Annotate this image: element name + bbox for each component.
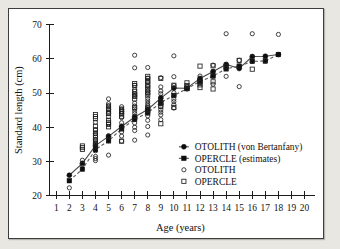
data-point: [250, 32, 254, 36]
data-point: [120, 139, 124, 143]
y-tick-label: 50: [32, 88, 42, 98]
data-point: [106, 153, 110, 157]
x-tick-label: 4: [93, 203, 98, 213]
legend-label: OPERCLE: [195, 177, 237, 187]
x-tick-label: 3: [80, 203, 85, 213]
data-point: [146, 124, 150, 128]
x-tick-label: 17: [261, 203, 271, 213]
x-tick-label: 6: [119, 203, 124, 213]
data-point: [67, 186, 71, 190]
x-tick-label: 9: [158, 203, 163, 213]
legend-entry: OPERCLE: [182, 177, 237, 187]
data-point: [224, 74, 228, 78]
scatter-chart: 2030405060701234567891011121314151617181…: [9, 9, 323, 238]
x-tick-label: 18: [274, 203, 284, 213]
chart-legend: OTOLITH (von Bertanfany)OPERCLE (estimat…: [179, 142, 302, 186]
x-tick-label: 16: [248, 203, 258, 213]
x-tick-label: 11: [182, 203, 191, 213]
data-point: [133, 53, 137, 57]
data-point: [133, 101, 137, 105]
legend-marker: [182, 156, 187, 161]
y-tick-label: 30: [32, 157, 42, 167]
legend-label: OTOLITH: [195, 165, 236, 175]
data-point: [146, 89, 150, 93]
data-point: [172, 75, 176, 79]
x-tick-label: 1: [54, 203, 59, 213]
fit-point: [67, 173, 72, 178]
y-tick-label: 20: [32, 191, 42, 201]
legend-marker: [182, 168, 186, 172]
data-point: [120, 134, 124, 138]
data-point: [159, 89, 163, 93]
data-point: [159, 118, 163, 122]
data-point: [224, 32, 228, 36]
legend-entry: OPERCLE (estimates): [179, 154, 280, 165]
legend-marker: [182, 179, 186, 183]
legend-entry: OTOLITH (von Bertanfany): [179, 142, 302, 153]
legend-label: OTOLITH (von Bertanfany): [195, 142, 303, 153]
y-tick-label: 60: [32, 54, 42, 64]
data-point: [211, 87, 215, 91]
data-point: [159, 122, 163, 126]
fit-point: [263, 54, 268, 59]
series-2: [67, 32, 280, 190]
data-point: [146, 133, 150, 137]
x-tick-label: 8: [145, 203, 150, 213]
x-tick-label: 10: [169, 203, 179, 213]
data-point: [237, 58, 241, 62]
x-axis-title: Age (years): [156, 222, 205, 234]
data-point: [237, 85, 241, 89]
x-tick-label: 7: [132, 203, 137, 213]
axes: 2030405060701234567891011121314151617181…: [32, 20, 315, 213]
data-point: [276, 32, 280, 36]
x-tick-label: 20: [300, 203, 310, 213]
y-tick-label: 70: [32, 20, 42, 30]
x-tick-label: 15: [235, 203, 245, 213]
data-point: [172, 54, 176, 58]
data-point: [146, 118, 150, 122]
chart-panel: 2030405060701234567891011121314151617181…: [8, 8, 324, 239]
legend-label: OPERCLE (estimates): [195, 154, 281, 165]
fit-point: [276, 52, 281, 57]
x-tick-label: 2: [67, 203, 72, 213]
x-tick-label: 14: [221, 203, 231, 213]
data-point: [250, 67, 254, 71]
fit-point: [67, 178, 72, 183]
data-point: [133, 66, 137, 70]
x-tick-label: 13: [208, 203, 218, 213]
x-tick-label: 19: [287, 203, 297, 213]
data-point: [106, 97, 110, 101]
y-tick-label: 40: [32, 123, 42, 133]
data-point: [198, 86, 202, 90]
fit-point: [80, 167, 85, 172]
data-point: [159, 85, 163, 89]
x-tick-label: 12: [195, 203, 205, 213]
data-point: [146, 65, 150, 69]
data-series: [67, 32, 281, 190]
legend-entry: OTOLITH: [182, 165, 236, 175]
data-point: [133, 138, 137, 142]
y-axis-title: Standard length (cm): [13, 66, 25, 154]
figure-root: 2030405060701234567891011121314151617181…: [0, 0, 340, 249]
legend-marker: [181, 144, 186, 149]
data-point: [198, 64, 202, 68]
x-tick-label: 5: [106, 203, 111, 213]
